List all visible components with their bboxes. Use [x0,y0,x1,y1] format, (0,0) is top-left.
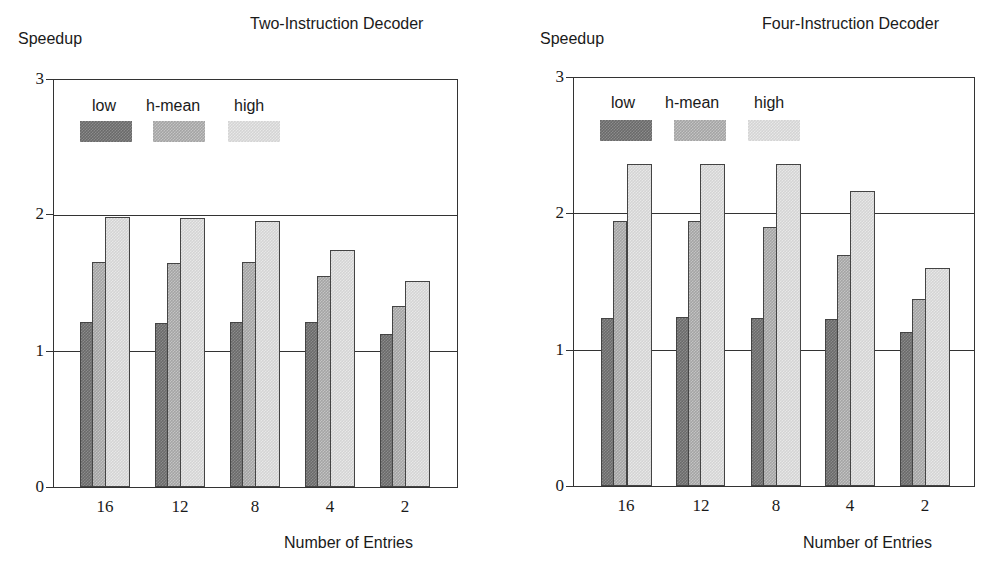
x-axis-label: Number of Entries [803,534,932,552]
legend-label-h-mean: h-mean [146,97,200,115]
bar-h-mean-16 [92,262,106,487]
legend-swatch-high [748,120,800,141]
legend-label-high: high [754,94,784,112]
bar-high-8 [776,164,801,486]
x-tick-label: 8 [756,496,796,516]
bar-high-16 [105,217,130,487]
chart-four-instruction-decoder: Four-Instruction Decoder Speedup 3 2 1 0… [500,0,1006,585]
legend-swatch-low [80,121,132,142]
legend-swatch-low [600,120,652,141]
chart-two-instruction-decoder: Two-Instruction Decoder Speedup 3 2 1 0 … [0,0,500,585]
y-tick-label: 1 [24,341,44,361]
y-tick-label: 3 [544,67,564,87]
bar-h-mean-8 [242,262,256,487]
bar-high-12 [180,218,205,487]
chart-title: Four-Instruction Decoder [762,15,939,33]
legend-swatch-high [228,121,280,142]
bar-h-mean-4 [837,255,851,486]
bar-h-mean-2 [392,306,406,487]
y-tick-label: 3 [24,69,44,89]
legend-label-low: low [611,94,635,112]
bar-high-12 [700,164,725,486]
y-tick-label: 0 [24,477,44,497]
legend-swatch-h-mean [674,120,726,141]
bar-high-16 [627,164,652,486]
plot-area: low h-mean high [53,79,458,488]
bar-h-mean-12 [167,263,181,487]
x-tick-label: 2 [905,496,945,516]
x-tick-label: 12 [160,497,200,517]
x-axis-label: Number of Entries [284,534,413,552]
bar-high-2 [925,268,950,486]
y-axis-label: Speedup [18,30,82,48]
bar-h-mean-16 [613,221,627,486]
chart-title: Two-Instruction Decoder [250,15,423,33]
bar-h-mean-2 [912,299,926,486]
bar-high-4 [330,250,355,487]
x-tick-label: 16 [606,496,646,516]
bar-high-2 [405,281,430,487]
x-tick-label: 2 [385,497,425,517]
legend-label-high: high [234,97,264,115]
x-tick-label: 8 [235,497,275,517]
bar-h-mean-4 [317,276,331,487]
x-tick-label: 4 [310,497,350,517]
legend-label-h-mean: h-mean [665,94,719,112]
x-tick-label: 12 [681,496,721,516]
y-tick-label: 2 [544,203,564,223]
y-axis-label: Speedup [540,30,604,48]
x-tick-label: 4 [830,496,870,516]
y-tick-label: 1 [544,340,564,360]
y-tick-label: 2 [24,204,44,224]
gridline-2 [54,215,457,216]
legend-swatch-h-mean [153,121,205,142]
y-tick-label: 0 [544,476,564,496]
bar-high-8 [255,221,280,487]
plot-area: low h-mean high [573,77,975,487]
bar-h-mean-8 [763,227,777,486]
x-tick-label: 16 [85,497,125,517]
legend-label-low: low [92,97,116,115]
bar-high-4 [850,191,875,486]
